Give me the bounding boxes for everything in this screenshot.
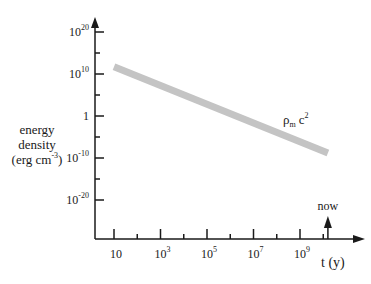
now-arrow-icon bbox=[324, 216, 332, 228]
y-tick-label: 10-10 bbox=[66, 149, 89, 165]
series-line bbox=[114, 67, 328, 153]
y-tick-label: 10-20 bbox=[66, 191, 89, 207]
y-axis-arrow-icon bbox=[91, 17, 99, 28]
y-axis-label-line2: density bbox=[18, 137, 56, 152]
x-tick-label: 10 bbox=[110, 247, 122, 261]
y-axis-label-line3: (erg cm-3) bbox=[12, 151, 63, 167]
x-tick-label: 105 bbox=[201, 245, 217, 261]
y-ticks: 10201010110-1010-20 bbox=[66, 23, 104, 207]
annotations: now bbox=[318, 199, 339, 239]
series-layer: ρmc2 bbox=[114, 67, 328, 153]
energy-density-chart: 10201010110-1010-20 10103105107109 ρmc2 … bbox=[0, 0, 371, 284]
y-axis-label-line1: energy bbox=[19, 122, 55, 137]
x-axis-label: t (y) bbox=[321, 255, 345, 271]
y-tick-label: 1020 bbox=[69, 23, 89, 39]
x-tick-label: 109 bbox=[294, 245, 310, 261]
now-label: now bbox=[318, 199, 339, 213]
y-tick-label: 1010 bbox=[69, 65, 89, 81]
y-tick-label: 1 bbox=[83, 109, 89, 123]
x-tick-label: 107 bbox=[248, 245, 264, 261]
x-ticks: 10103105107109 bbox=[110, 229, 323, 261]
x-axis-arrow-icon bbox=[353, 235, 365, 243]
x-tick-label: 103 bbox=[155, 245, 171, 261]
series-label: ρmc2 bbox=[283, 111, 309, 129]
